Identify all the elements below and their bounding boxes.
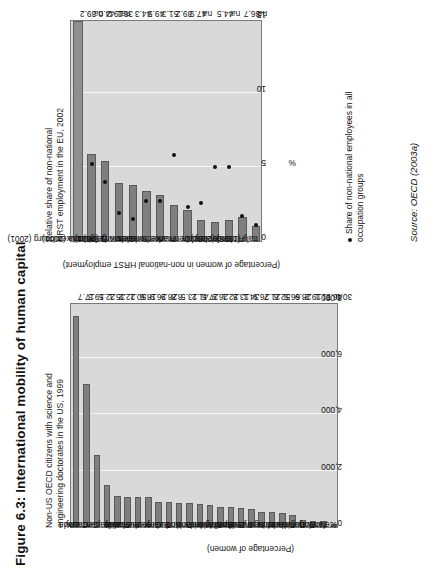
category-label: Italy (1998): [217, 234, 259, 244]
chart-left: Non-US OECD citizens with science and en…: [44, 298, 424, 566]
chart-left-subtitle: Non-US OECD citizens with science and en…: [44, 298, 66, 528]
scatter-point: [117, 211, 121, 215]
scatter-point: [186, 205, 190, 209]
chart-right-plot: [70, 20, 262, 242]
axis-tick-label: 6,000: [321, 349, 342, 359]
gridline: [71, 92, 261, 93]
axis-tick-label: 4,000: [321, 406, 342, 416]
axis-tick-label: 10: [257, 84, 266, 94]
bar: [83, 384, 89, 527]
value-label: na: [258, 9, 267, 19]
value-label: na: [121, 9, 130, 19]
axis-tick-label: 0: [337, 518, 342, 528]
gridline: [71, 414, 337, 415]
bar: [101, 161, 109, 241]
chart-right-legend: Share of non-national employees in all o…: [344, 82, 366, 242]
value-label: 30.0: [336, 292, 352, 302]
scatter-point: [227, 165, 231, 169]
figure-source: Source: OECD (2003a): [408, 143, 419, 242]
chart-right-x-axis-title: %: [289, 158, 296, 168]
bar: [94, 455, 100, 527]
bar: [129, 185, 137, 241]
gridline: [71, 357, 337, 358]
chart-left-y-axis-title: (Percentage of women): [207, 544, 294, 554]
legend-label: Share of non-national employees in all o…: [344, 92, 365, 242]
chart-right: Relative share of non-national HRST empl…: [44, 12, 424, 284]
scatter-point: [199, 201, 203, 205]
scatter-point: [172, 153, 176, 157]
axis-tick-label: 5: [261, 158, 266, 168]
figure-page: Figure 6.3: International mobility of hu…: [0, 0, 445, 580]
luxembourg-highlight-band: [73, 21, 82, 241]
rotated-page: Figure 6.3: International mobility of hu…: [0, 0, 445, 580]
scatter-point: [254, 223, 258, 227]
chart-right-y-axis-title: (Percentage of women in non-national HRS…: [63, 260, 280, 270]
bar: [73, 316, 79, 527]
legend-marker-dot: [348, 238, 352, 242]
gridline: [71, 166, 261, 167]
value-label: na: [203, 9, 212, 19]
value-label: na: [94, 9, 103, 19]
chart-right-subtitle: Relative share of non-national HRST empl…: [44, 12, 66, 242]
scatter-point: [131, 217, 135, 221]
value-label: na: [231, 9, 240, 19]
figure-title: Figure 6.3: International mobility of hu…: [13, 241, 28, 566]
chart-left-plot: [70, 303, 338, 528]
scatter-point: [213, 165, 217, 169]
scatter-point: [90, 162, 94, 166]
axis-tick-label: 2,000: [321, 462, 342, 472]
axis-tick-label: 0: [261, 232, 266, 242]
gridline: [71, 470, 337, 471]
bar: [87, 154, 95, 241]
category-label: Iceland: [309, 520, 336, 530]
